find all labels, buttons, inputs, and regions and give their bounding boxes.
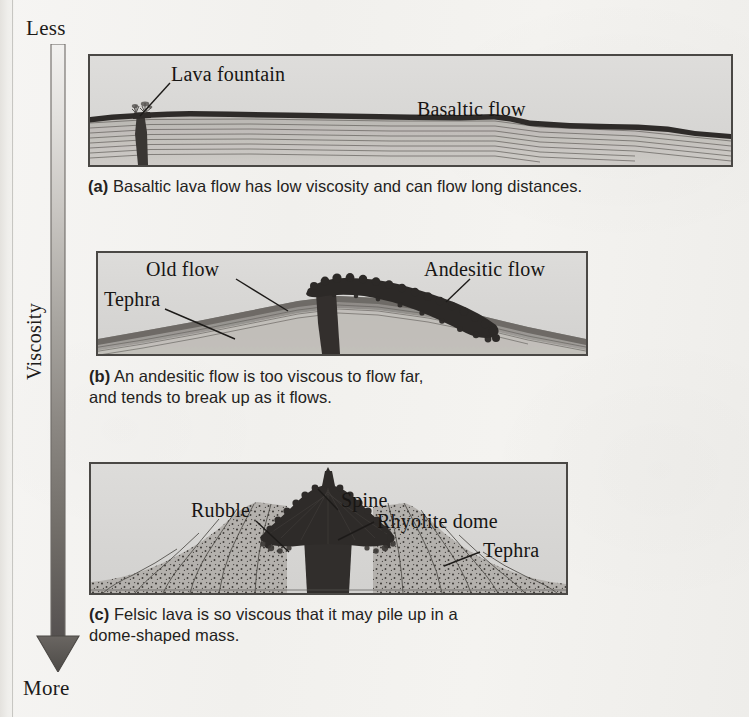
- label-basaltic-flow: Basaltic flow: [417, 98, 526, 121]
- label-old-flow: Old flow: [146, 258, 219, 281]
- caption-b-text: An andesitic flow is too viscous to flow…: [89, 367, 423, 406]
- label-tephra-c: Tephra: [483, 539, 539, 562]
- label-rubble: Rubble: [191, 499, 250, 522]
- caption-c-text: Felsic lava is so viscous that it may pi…: [89, 605, 458, 644]
- page-gutter-shadow: [0, 0, 14, 717]
- caption-b-marker: (b): [89, 367, 110, 385]
- label-spine: Spine: [341, 489, 388, 512]
- caption-a: (a) Basaltic lava flow has low viscosity…: [88, 176, 708, 197]
- caption-c-marker: (c): [89, 605, 109, 623]
- axis-label-viscosity: Viscosity: [23, 303, 46, 380]
- caption-c: (c) Felsic lava is so viscous that it ma…: [89, 604, 569, 647]
- axis-label-more: More: [23, 676, 70, 701]
- caption-a-text: Basaltic lava flow has low viscosity and…: [108, 177, 582, 195]
- caption-b: (b) An andesitic flow is too viscous to …: [89, 366, 569, 409]
- label-tephra-b: Tephra: [104, 288, 160, 311]
- lava-viscosity-figure: Less Viscosity More: [0, 0, 749, 717]
- caption-a-marker: (a): [88, 177, 108, 195]
- axis-label-less: Less: [26, 16, 66, 41]
- page-gutter-line: [12, 0, 13, 717]
- label-rhyolite-dome: Rhyolite dome: [377, 510, 498, 533]
- label-andesitic-flow: Andesitic flow: [424, 258, 545, 281]
- label-lava-fountain: Lava fountain: [171, 63, 285, 86]
